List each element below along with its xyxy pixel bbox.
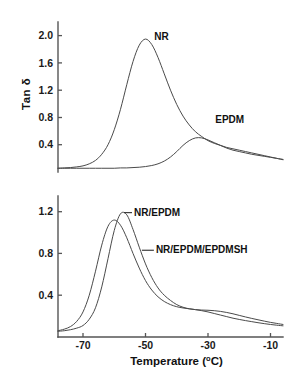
x-axis-title: Temperature (oC) (130, 354, 223, 368)
y-tick-label: 0.8 (38, 111, 53, 123)
series-annotation-label: NR (154, 31, 169, 42)
series-annotation-label: NR/EPDM/EPDMSH (156, 244, 248, 255)
x-tick-label: -30 (200, 339, 215, 351)
data-curve (58, 39, 283, 168)
chart-svg-bottom: 0.40.81.2-70-50-30-10Temperature (oC)NR/… (0, 186, 288, 389)
y-tick-label: 0.8 (38, 247, 53, 259)
series-annotation-label: EPDM (215, 114, 244, 125)
x-tick-label: -50 (138, 339, 153, 351)
data-curve (58, 212, 283, 331)
y-tick-label: 1.6 (38, 57, 53, 69)
x-tick-label: -10 (263, 339, 278, 351)
data-curve (58, 138, 283, 169)
series-annotation-label: NR/EPDM (134, 207, 180, 218)
y-tick-label: 1.2 (38, 205, 53, 217)
chart-panel-top: 0.40.81.21.62.0NREPDM Tan δ (0, 0, 288, 196)
y-tick-label: 2.0 (38, 29, 53, 41)
data-curve (58, 220, 283, 331)
y-axis-title-top: Tan δ (20, 78, 32, 110)
y-tick-label: 1.2 (38, 84, 53, 96)
y-tick-label: 0.4 (38, 289, 53, 301)
x-tick-label: -70 (75, 339, 90, 351)
chart-panel-bottom: 0.40.81.2-70-50-30-10Temperature (oC)NR/… (0, 186, 288, 389)
chart-svg-top: 0.40.81.21.62.0NREPDM (0, 0, 288, 196)
y-tick-label: 0.4 (38, 138, 53, 150)
